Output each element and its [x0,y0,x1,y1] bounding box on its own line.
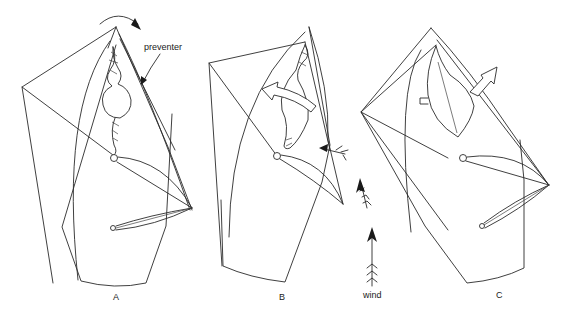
twisted-spar-a [102,47,131,118]
preventer-pointer [143,54,160,82]
sail-midline-c [438,62,457,133]
boom-upper-a [118,157,192,208]
caption-a: A [113,292,119,302]
pole-end-c [480,224,485,229]
panel-b: B [209,27,348,302]
gust-arrowhead-b [319,144,328,152]
preventer-line-a [119,34,190,210]
forestay-a [22,87,113,155]
boom-lower-b [280,159,343,204]
pole-end-a [111,226,116,231]
gooseneck-c [460,155,467,162]
wind-indicator: wind [356,178,382,300]
shroud2-a [120,39,175,150]
caption-b: B [279,292,285,302]
pole-lower-c [485,185,549,228]
diagram-canvas: preventer A B wind [0,0,568,314]
panel-c: C [361,28,549,300]
panel-a: preventer A [22,16,192,302]
gooseneck-b [274,153,281,160]
boom-upper-c [467,156,549,185]
heel-arrow-b [262,82,316,112]
wind-label: wind [362,290,382,300]
preventer-label: preventer [144,42,182,52]
topmast-a [108,27,116,48]
mast-b [209,42,305,266]
shroud2-b [305,42,330,150]
twist-marks-a [109,52,119,141]
gooseneck-a [111,155,118,162]
arc-a [73,41,110,280]
sail-shape-c [427,46,474,137]
shroud2-c [437,40,548,184]
aft-line-c [361,112,448,230]
hull-outline-a [62,45,172,286]
pole-mid-c [484,185,549,225]
forestay-b [209,63,277,156]
mast-a [22,27,116,283]
caption-c: C [496,290,503,300]
pole-mid-a [116,208,192,228]
sail-tab-c [420,98,428,104]
preventer-pointer-head [141,76,147,85]
arc-b [229,32,305,237]
